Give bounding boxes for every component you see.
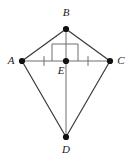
vertex-dot-a [19, 58, 25, 64]
vertex-label-a: A [7, 54, 15, 66]
kite-diagram-svg: B A C E D [0, 0, 130, 158]
segment-dc [66, 61, 110, 137]
vertex-dot-c [107, 58, 113, 64]
vertex-dot-b [63, 26, 69, 32]
vertex-label-b: B [63, 6, 70, 18]
vertex-label-c: C [117, 54, 125, 66]
vertex-label-d: D [61, 143, 70, 155]
vertex-dot-d [63, 134, 69, 140]
vertex-label-e: E [57, 64, 65, 76]
geometry-figure: B A C E D [0, 0, 130, 158]
